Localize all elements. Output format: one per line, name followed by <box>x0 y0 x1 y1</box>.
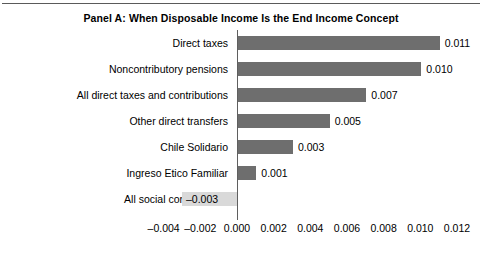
x-tick-label: –0.002 <box>184 222 216 234</box>
x-tick-label: 0.008 <box>371 222 397 234</box>
bar <box>238 114 330 128</box>
bar-row: Other direct transfers0.005 <box>0 108 482 134</box>
category-label: Direct taxes <box>173 30 228 56</box>
bar-value-label: 0.011 <box>445 30 471 56</box>
category-label: Ingreso Etico Familiar <box>126 160 228 186</box>
bar-value-label: 0.001 <box>261 160 287 186</box>
x-tick-label: 0.002 <box>261 222 287 234</box>
bar-row: All social contributions–0.003 <box>0 186 482 212</box>
bar-value-label: –0.003 <box>186 186 218 212</box>
bar-value-label: 0.003 <box>298 134 324 160</box>
bar <box>238 166 256 180</box>
x-tick-label: –0.004 <box>148 222 180 234</box>
x-tick-label: 0.006 <box>334 222 360 234</box>
plot-area: Direct taxes0.011Noncontributory pension… <box>0 30 482 222</box>
x-tick-label: 0.004 <box>297 222 323 234</box>
category-label: Chile Solidario <box>160 134 228 160</box>
bar <box>238 36 440 50</box>
bar <box>238 140 293 154</box>
bar-row: Ingreso Etico Familiar0.001 <box>0 160 482 186</box>
bar-row: Chile Solidario0.003 <box>0 134 482 160</box>
bar <box>238 62 421 76</box>
category-label: Other direct transfers <box>129 108 228 134</box>
bar-row: Noncontributory pensions0.010 <box>0 56 482 82</box>
x-axis-tick-labels: –0.004–0.0020.0000.0020.0040.0060.0080.0… <box>0 222 482 238</box>
bar-value-label: 0.007 <box>371 82 397 108</box>
top-divider-rule <box>2 3 480 4</box>
chart-title: Panel A: When Disposable Income Is the E… <box>0 12 482 24</box>
bar-value-label: 0.005 <box>335 108 361 134</box>
x-tick-label: 0.012 <box>444 222 470 234</box>
x-tick-label: 0.010 <box>407 222 433 234</box>
category-label: All direct taxes and contributions <box>77 82 228 108</box>
chart-figure: Panel A: When Disposable Income Is the E… <box>0 0 482 256</box>
x-tick-label: 0.000 <box>224 222 250 234</box>
bar-row: All direct taxes and contributions0.007 <box>0 82 482 108</box>
bar-row: Direct taxes0.011 <box>0 30 482 56</box>
category-label: Noncontributory pensions <box>109 56 228 82</box>
bar <box>238 88 366 102</box>
bar-value-label: 0.010 <box>426 56 452 82</box>
